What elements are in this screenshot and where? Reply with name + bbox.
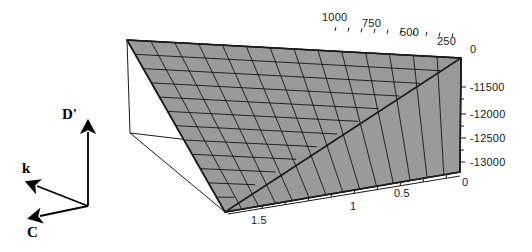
- tick-k-750: 750: [362, 17, 381, 29]
- tick-dprime-12500: -12500: [470, 132, 505, 144]
- tick-c-0: 0: [462, 176, 468, 188]
- tick-c-1: 1: [350, 200, 356, 212]
- tick-k-500: 500: [400, 26, 419, 38]
- axis-k-ticks: [335, 27, 453, 37]
- tick-c-0p5: 0.5: [394, 187, 410, 199]
- tick-dprime-12000: -12000: [470, 108, 505, 120]
- tick-k-250: 250: [437, 35, 456, 47]
- tick-dprime-11500: -11500: [470, 81, 505, 93]
- figure-canvas: D' k C: [0, 0, 532, 252]
- tick-k-0: 0: [470, 43, 476, 55]
- tick-dprime-13000: -13000: [470, 156, 505, 168]
- tick-c-1p5: 1.5: [251, 214, 267, 226]
- axis-k: [335, 27, 453, 37]
- tick-k-1000: 1000: [322, 11, 347, 23]
